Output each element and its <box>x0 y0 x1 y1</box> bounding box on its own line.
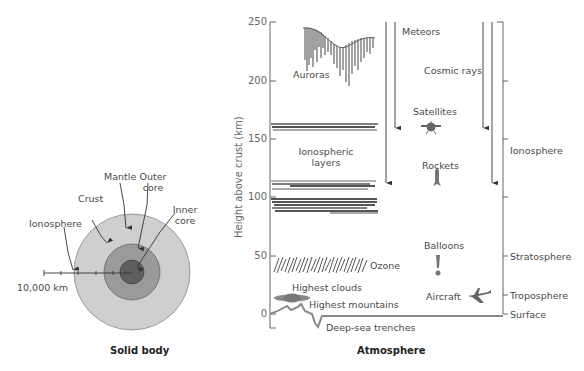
label-highest-clouds: Highest clouds <box>292 282 362 293</box>
label-layer-surface: Surface <box>510 309 546 320</box>
caption-atmosphere: Atmosphere <box>357 345 426 356</box>
label-mantle: Mantle <box>104 171 136 182</box>
y-tick-150: 150 <box>243 133 267 144</box>
label-inner-core-line2: core <box>170 215 200 226</box>
ionospheric-layer-bars <box>271 124 378 213</box>
label-scale: 10,000 km <box>17 282 68 293</box>
label-layer-ionosphere: Ionosphere <box>510 145 563 156</box>
label-ionospheric-layers: Ionospheric layers <box>296 146 356 168</box>
y-axis <box>270 22 276 328</box>
label-ionospheric-line2: layers <box>296 157 356 168</box>
y-axis-label: Height above crust (km) <box>233 116 244 238</box>
label-ionosphere-solid: Ionosphere <box>29 218 82 229</box>
y-tick-0: 0 <box>243 308 267 319</box>
inner-core-circle <box>120 260 144 284</box>
solid-body-diagram <box>44 183 190 330</box>
label-cosmic-rays: Cosmic rays <box>424 65 482 76</box>
label-outer-core: Outer core <box>138 171 168 193</box>
label-deep-sea-trenches: Deep-sea trenches <box>326 322 415 333</box>
ozone-hatch <box>274 257 367 273</box>
penetration-arrows <box>386 22 492 183</box>
label-rockets: Rockets <box>422 160 459 171</box>
diagram-canvas <box>0 0 584 371</box>
layer-bracket <box>497 22 508 314</box>
label-layer-stratosphere: Stratosphere <box>510 251 571 262</box>
label-inner-core-line1: Inner <box>170 204 200 215</box>
label-highest-mountains: Highest mountains <box>309 299 399 310</box>
label-inner-core: Inner core <box>170 204 200 226</box>
aircraft-icon <box>468 288 491 303</box>
label-outer-core-line2: core <box>138 182 168 193</box>
label-outer-core-line1: Outer <box>138 171 168 182</box>
y-tick-200: 200 <box>243 75 267 86</box>
clouds-shape-core <box>284 294 300 303</box>
label-satellites: Satellites <box>413 106 457 117</box>
label-balloons: Balloons <box>424 240 464 251</box>
label-aircraft: Aircraft <box>426 291 461 302</box>
label-meteors: Meteors <box>402 26 440 37</box>
label-ozone: Ozone <box>370 260 400 271</box>
caption-solid-body: Solid body <box>110 345 169 356</box>
y-tick-50: 50 <box>243 250 267 261</box>
balloon-icon <box>436 255 441 276</box>
satellite-icon <box>421 121 441 134</box>
label-auroras: Auroras <box>293 69 330 80</box>
label-layer-troposphere: Troposphere <box>510 290 568 301</box>
y-tick-100: 100 <box>243 191 267 202</box>
label-ionospheric-line1: Ionospheric <box>296 146 356 157</box>
y-tick-250: 250 <box>243 16 267 27</box>
label-crust: Crust <box>78 193 103 204</box>
